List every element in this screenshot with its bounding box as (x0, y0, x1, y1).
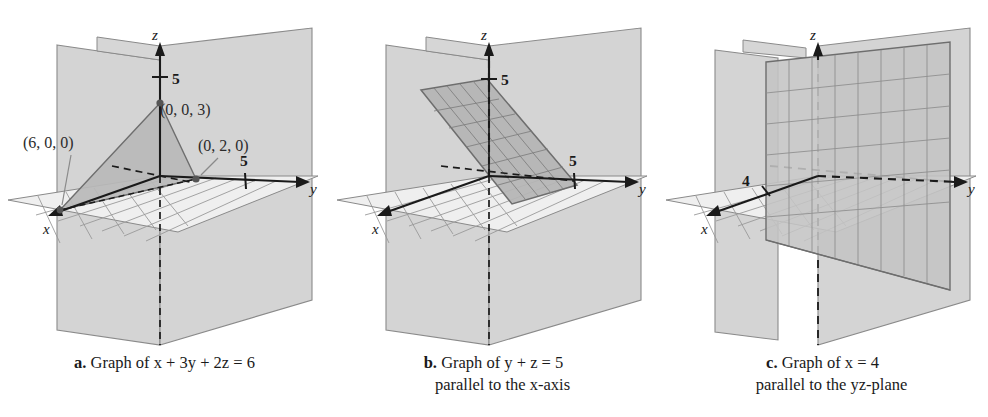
point-label-6-0-0: (6, 0, 0) (23, 134, 74, 152)
coordinate-system-a: z y x 5 5 (6, 0, 0) (0, 0, 3) (0, 2, 0) (0, 0, 329, 350)
caption-a-label: a. (74, 353, 86, 372)
caption-b-line1: Graph of y + z = 5 (441, 353, 563, 372)
diagram-panel-c: z y x 4 (658, 0, 987, 350)
caption-c-line1: Graph of x = 4 (782, 353, 879, 372)
diagram-panel-a: z y x 5 5 (6, 0, 0) (0, 0, 3) (0, 2, 0) (0, 0, 329, 350)
z-tick-label-b: 5 (501, 71, 509, 88)
point-dot-y-a (192, 175, 199, 182)
caption-b-label: b. (424, 353, 437, 372)
figure-three-plane-graphs: z y x 5 5 (6, 0, 0) (0, 0, 3) (0, 2, 0) (0, 0, 988, 417)
x-axis-label-b: x (371, 221, 379, 237)
z-axis-label-c: z (809, 27, 816, 43)
z-axis-label-b: z (480, 27, 487, 43)
y-tick-label-b: 5 (569, 152, 577, 169)
z-tick-label-a: 5 (172, 70, 180, 87)
y-tick-5-b (574, 173, 575, 189)
caption-c-line2: parallel to the yz-plane (658, 374, 987, 396)
y-axis-label-a: y (308, 181, 317, 197)
z-axis-label-a: z (151, 27, 158, 43)
x-axis-label-c: x (700, 221, 708, 237)
y-axis-label-b: y (637, 181, 646, 197)
point-label-0-0-3: (0, 0, 3) (160, 101, 211, 119)
y-tick-label-a: 5 (240, 152, 248, 169)
caption-b-line2: parallel to the x-axis (329, 374, 658, 396)
caption-b: b. Graph of y + z = 5 parallel to the x-… (329, 352, 658, 396)
caption-c: c. Graph of x = 4 parallel to the yz-pla… (658, 352, 987, 396)
caption-c-label: c. (766, 353, 777, 372)
coordinate-system-b: z y x 5 5 (329, 0, 658, 350)
caption-a-line1: Graph of x + 3y + 2z = 6 (91, 353, 255, 372)
x-tick-label-c: 4 (742, 172, 750, 189)
caption-a: a. Graph of x + 3y + 2z = 6 (0, 352, 329, 374)
x-axis-label-a: x (42, 221, 50, 237)
point-label-0-2-0: (0, 2, 0) (198, 137, 249, 155)
diagram-panel-b: z y x 5 5 (329, 0, 658, 350)
point-dot-x-a (57, 207, 64, 214)
y-tick-5-a (245, 173, 246, 189)
y-axis-label-c: y (966, 181, 975, 197)
coordinate-system-c: z y x 4 (658, 0, 987, 350)
